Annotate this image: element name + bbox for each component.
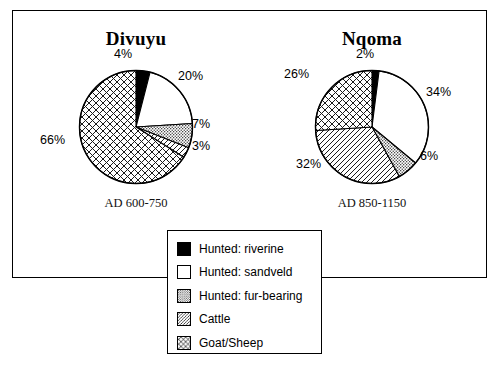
pie-value-label: 20% xyxy=(178,70,203,83)
legend-item: Goat/Sheep xyxy=(177,331,319,355)
pie-value-label: 26% xyxy=(284,68,309,81)
legend-swatch-diagonal-hatch xyxy=(177,312,191,326)
legend-label: Hunted: sandveld xyxy=(199,265,292,279)
legend-item: Hunted: sandveld xyxy=(177,261,319,285)
legend: Hunted: riverineHunted: sandveldHunted: … xyxy=(167,230,322,354)
legend-swatch-stipple-dots xyxy=(177,289,191,303)
legend-swatch-cross-hatch xyxy=(177,336,191,350)
pie-value-label: 6% xyxy=(420,150,438,163)
legend-label: Hunted: riverine xyxy=(199,242,284,256)
pie-chart-divuyu xyxy=(77,68,195,186)
pie-value-label: 66% xyxy=(40,134,65,147)
legend-swatch-empty-white xyxy=(177,265,191,279)
pie-svg-divuyu xyxy=(77,68,195,186)
pie-panel-nqoma: Nqoma AD 850-1150 2%34%6%32%26% xyxy=(262,0,482,220)
legend-label: Goat/Sheep xyxy=(199,336,263,350)
pie-value-label: 7% xyxy=(192,118,210,131)
pie-panel-divuyu: Divuyu AD 600-750 4%20%7%3%66% xyxy=(26,0,246,220)
legend-swatch-solid-black xyxy=(177,242,191,256)
legend-item: Hunted: riverine xyxy=(177,237,319,261)
pie-value-label: 2% xyxy=(356,48,374,61)
pie-slice xyxy=(315,71,372,131)
pie-caption-nqoma: AD 850-1150 xyxy=(262,196,482,211)
pie-value-label: 4% xyxy=(114,48,132,61)
legend-label: Hunted: fur-bearing xyxy=(199,289,302,303)
legend-label: Cattle xyxy=(199,312,230,326)
pie-value-label: 32% xyxy=(296,158,321,171)
pie-value-label: 3% xyxy=(192,140,210,153)
pie-svg-nqoma xyxy=(313,68,431,186)
pie-value-label: 34% xyxy=(426,86,451,99)
legend-item: Cattle xyxy=(177,308,319,332)
legend-list: Hunted: riverineHunted: sandveldHunted: … xyxy=(177,237,319,355)
pie-chart-nqoma xyxy=(313,68,431,186)
pie-caption-divuyu: AD 600-750 xyxy=(26,196,246,211)
figure-container: Divuyu AD 600-750 4%20%7%3%66% Nqoma AD … xyxy=(0,0,501,365)
pie-title-divuyu: Divuyu xyxy=(26,28,246,50)
legend-item: Hunted: fur-bearing xyxy=(177,284,319,308)
